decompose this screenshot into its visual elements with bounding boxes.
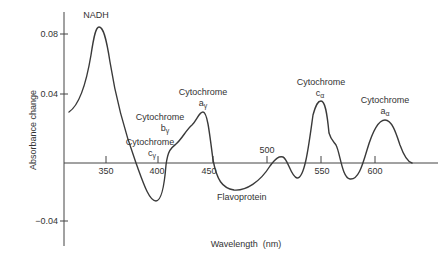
annotation-cytochrome-c-alpha: Cytochrome cα: [297, 77, 346, 99]
svg-text:Cytochrome: Cytochrome: [126, 137, 175, 147]
absorbance-chart: 0.08 0.04 −0.04 350 400 450 500 550 600 …: [0, 0, 438, 260]
annotation-nadh: NADH: [83, 10, 109, 20]
x-tick-label-400: 400: [149, 166, 164, 176]
svg-text:cγ: cγ: [148, 148, 157, 160]
svg-text:Cytochrome: Cytochrome: [297, 77, 346, 87]
annotation-cytochrome-b-gamma: Cytochrome bγ: [136, 112, 185, 135]
annotation-flavoprotein: Flavoprotein: [217, 192, 267, 202]
y-tick-label-0.04: 0.04: [40, 89, 58, 99]
y-axis-label: Absorbance change: [28, 90, 38, 170]
svg-text:cα: cα: [316, 88, 325, 99]
svg-text:aγ: aγ: [199, 98, 208, 110]
svg-text:Cytochrome: Cytochrome: [179, 87, 228, 97]
x-tick-label-600: 600: [367, 166, 382, 176]
x-axis-label: Wavelength (nm): [211, 239, 282, 249]
annotation-cytochrome-a-alpha: Cytochrome aα: [361, 95, 410, 117]
svg-text:Cytochrome: Cytochrome: [136, 112, 185, 122]
svg-text:aα: aα: [380, 106, 389, 117]
svg-text:Cytochrome: Cytochrome: [361, 95, 410, 105]
absorbance-curve: [69, 27, 412, 201]
x-tick-label-500: 500: [259, 145, 274, 155]
svg-text:bγ: bγ: [161, 123, 170, 135]
y-tick-label-0.08: 0.08: [40, 29, 58, 39]
x-tick-label-350: 350: [98, 166, 113, 176]
annotation-cytochrome-a-gamma: Cytochrome aγ: [179, 87, 228, 110]
x-tick-label-550: 550: [314, 166, 329, 176]
y-tick-label-neg0.04: −0.04: [35, 216, 58, 226]
